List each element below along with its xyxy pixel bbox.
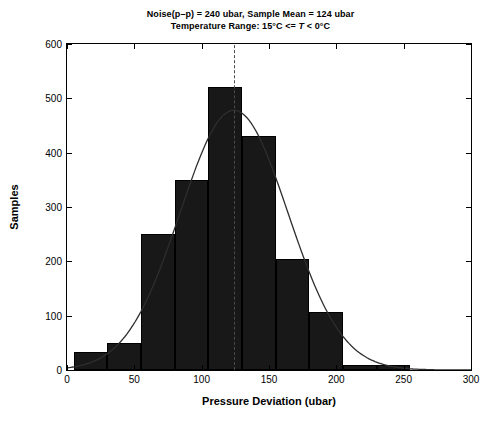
y-tick-label-500: 500	[45, 93, 62, 104]
x-tick-mark	[471, 43, 472, 49]
histogram-bar	[377, 365, 411, 370]
x-axis-label: Pressure Deviation (ubar)	[202, 395, 336, 407]
x-tick-label-200: 200	[328, 374, 345, 385]
histogram-bar	[242, 136, 276, 370]
y-tick-label-0: 0	[56, 365, 62, 376]
histogram-bar	[309, 312, 343, 370]
x-tick-mark	[269, 365, 270, 371]
sample-mean-line	[234, 44, 235, 370]
y-tick-label-100: 100	[45, 310, 62, 321]
chart-title-block: Noise(p–p) = 240 ubar, Sample Mean = 124…	[0, 8, 501, 32]
x-tick-label-150: 150	[261, 374, 278, 385]
y-tick-mark	[466, 261, 472, 262]
plot-frame: 0100200300400500600050100150200250300	[66, 43, 472, 371]
y-tick-mark	[66, 261, 72, 262]
y-tick-mark	[466, 98, 472, 99]
subtitle-prefix: Temperature Range: 15°C <=	[171, 21, 299, 31]
y-tick-mark	[66, 153, 72, 154]
y-tick-label-200: 200	[45, 256, 62, 267]
x-tick-mark	[336, 365, 337, 371]
histogram-bar	[74, 352, 108, 370]
y-tick-label-300: 300	[45, 202, 62, 213]
y-axis-label: Samples	[8, 184, 20, 229]
y-tick-label-400: 400	[45, 147, 62, 158]
y-tick-mark	[466, 316, 472, 317]
x-tick-label-300: 300	[463, 374, 480, 385]
x-tick-label-100: 100	[193, 374, 210, 385]
histogram-bar	[175, 180, 209, 370]
y-tick-mark	[66, 316, 72, 317]
histogram-bar	[141, 234, 175, 370]
x-tick-mark	[404, 43, 405, 49]
y-tick-mark	[466, 207, 472, 208]
x-tick-mark	[134, 365, 135, 371]
subtitle-suffix: < 0°C	[304, 21, 330, 31]
y-tick-mark	[66, 98, 72, 99]
x-tick-mark	[202, 365, 203, 371]
histogram-bar	[208, 87, 242, 370]
x-tick-label-0: 0	[64, 374, 70, 385]
x-tick-mark	[471, 365, 472, 371]
histogram-bar	[343, 365, 377, 370]
histogram-bar	[107, 343, 141, 370]
y-tick-label-600: 600	[45, 39, 62, 50]
x-tick-label-50: 50	[129, 374, 140, 385]
y-tick-mark	[66, 207, 72, 208]
x-tick-label-250: 250	[395, 374, 412, 385]
chart-title-line-1: Noise(p–p) = 240 ubar, Sample Mean = 124…	[0, 8, 501, 20]
x-tick-mark	[336, 43, 337, 49]
x-tick-mark	[67, 43, 68, 49]
plot-area	[67, 44, 471, 370]
histogram-figure: Noise(p–p) = 240 ubar, Sample Mean = 124…	[0, 0, 501, 426]
x-tick-mark	[134, 43, 135, 49]
chart-title-line-2: Temperature Range: 15°C <= T < 0°C	[0, 20, 501, 32]
x-tick-mark	[269, 43, 270, 49]
x-tick-mark	[67, 365, 68, 371]
x-tick-mark	[404, 365, 405, 371]
y-tick-mark	[466, 153, 472, 154]
x-tick-mark	[202, 43, 203, 49]
histogram-bar	[276, 259, 310, 370]
